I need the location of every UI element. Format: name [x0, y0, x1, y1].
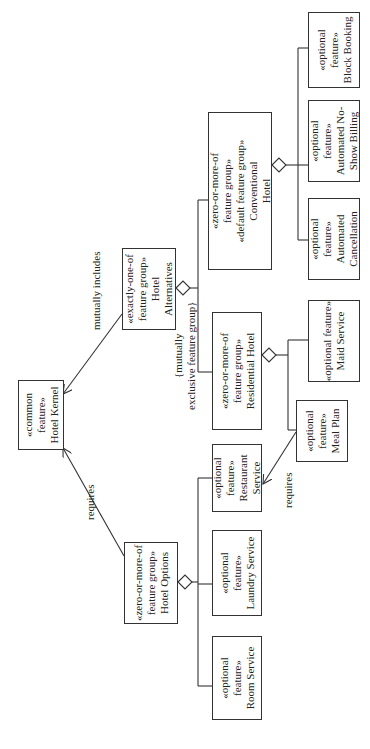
node-name: Service: [250, 454, 263, 501]
node-name: Meal Plan: [329, 409, 342, 454]
laundry-service-text: «optional feature» Laundry Service: [218, 537, 257, 610]
node-name: Cancellation: [347, 211, 360, 267]
node-name: Block Booking: [341, 17, 354, 84]
constraint-line-1: {mutually: [172, 301, 185, 410]
stereotype-label: «zero-or-more-of: [208, 139, 221, 242]
stereotype-label: «zero-or-more-of: [218, 333, 231, 410]
stereotype-label: feature»: [35, 386, 48, 443]
maid-service-node[interactable]: «optional feature» Maid Service: [308, 300, 360, 382]
stereotype-label: «zero-or-more-of: [132, 545, 145, 621]
mutually-includes-label: mutually includes: [90, 251, 103, 330]
automated-no-show-billing-text: «optional feature» Automated No- Show Bi…: [308, 107, 360, 176]
node-name: Automated No-: [334, 107, 347, 176]
node-name: Hotel: [149, 254, 162, 324]
stereotype-label: «optional: [308, 211, 321, 267]
conventional-hotel-text: «zero-or-more-of feature group» «default…: [208, 139, 273, 242]
stereotype-label: feature»: [231, 647, 244, 710]
meal-plan-text: «optional feature» Meal Plan: [303, 409, 342, 454]
hotel-alternatives-text: «exactly-one-of feature group» Hotel Alt…: [123, 254, 175, 324]
stereotype-label: feature group»: [231, 333, 244, 410]
node-name: Laundry Service: [244, 537, 257, 610]
requires-label-options: requires: [84, 485, 97, 520]
residential-hotel-node[interactable]: «zero-or-more-of feature group» Resident…: [212, 312, 262, 430]
stereotype-label: feature group»: [221, 139, 234, 242]
stereotype-label: feature group»: [145, 545, 158, 621]
stereotype-label: «default feature group»: [234, 139, 247, 242]
hotel-kernel-text: «common feature» Hotel Kernel: [22, 386, 61, 443]
conventional-hotel-node[interactable]: «zero-or-more-of feature group» «default…: [208, 112, 272, 270]
node-name: Hotel Options: [158, 545, 171, 621]
room-service-text: «optional feature» Room Service: [218, 647, 257, 710]
restaurant-service-text: «optional feature» Restaurant Service: [211, 454, 263, 501]
stereotype-label: feature»: [231, 537, 244, 610]
node-name: Restaurant: [237, 454, 250, 501]
stereotype-label: «optional: [211, 454, 224, 501]
stereotype-label: feature»: [321, 107, 334, 176]
stereotype-label: «common: [22, 386, 35, 443]
node-name: Conventional: [247, 139, 260, 242]
node-name: Maid Service: [334, 301, 347, 381]
stereotype-label: feature group»: [136, 254, 149, 324]
meal-plan-node[interactable]: «optional feature» Meal Plan: [296, 400, 348, 462]
automated-cancellation-text: «optional feature» Automated Cancellatio…: [308, 211, 360, 267]
stereotype-label: feature»: [321, 211, 334, 267]
stereotype-label: «optional feature»: [321, 301, 334, 381]
residential-hotel-text: «zero-or-more-of feature group» Resident…: [218, 333, 257, 410]
node-name: Room Service: [244, 647, 257, 710]
requires-label-meal-plan: requires: [282, 473, 295, 508]
node-name: Hotel Kernel: [48, 386, 61, 443]
block-booking-node[interactable]: «optional feature» Block Booking: [308, 12, 360, 88]
hotel-alternatives-node[interactable]: «exactly-one-of feature group» Hotel Alt…: [122, 248, 176, 330]
hotel-kernel-node[interactable]: «common feature» Hotel Kernel: [18, 380, 64, 450]
stereotype-label: «optional: [218, 647, 231, 710]
node-name: Show Billing: [347, 107, 360, 176]
stereotype-label: «optional: [315, 17, 328, 84]
node-name: Hotel: [260, 139, 273, 242]
block-booking-text: «optional feature» Block Booking: [315, 17, 354, 84]
stereotype-label: feature»: [328, 17, 341, 84]
automated-no-show-billing-node[interactable]: «optional feature» Automated No- Show Bi…: [308, 100, 360, 182]
restaurant-service-node[interactable]: «optional feature» Restaurant Service: [212, 444, 262, 512]
node-name: Automated: [334, 211, 347, 267]
stereotype-label: «optional: [308, 107, 321, 176]
stereotype-label: «exactly-one-of: [123, 254, 136, 324]
stereotype-label: feature»: [224, 454, 237, 501]
hotel-options-node[interactable]: «zero-or-more-of feature group» Hotel Op…: [124, 542, 178, 624]
constraint-label: {mutually exclusive feature group}: [172, 301, 198, 410]
hotel-options-text: «zero-or-more-of feature group» Hotel Op…: [132, 545, 171, 621]
stereotype-label: feature»: [316, 409, 329, 454]
stereotype-label: «optional: [303, 409, 316, 454]
maid-service-text: «optional feature» Maid Service: [321, 301, 347, 381]
room-service-node[interactable]: «optional feature» Room Service: [212, 636, 262, 720]
constraint-line-2: exclusive feature group}: [185, 301, 198, 410]
laundry-service-node[interactable]: «optional feature» Laundry Service: [212, 530, 262, 616]
node-name: Residential Hotel: [244, 333, 257, 410]
stereotype-label: «optional: [218, 537, 231, 610]
automated-cancellation-node[interactable]: «optional feature» Automated Cancellatio…: [308, 198, 360, 280]
